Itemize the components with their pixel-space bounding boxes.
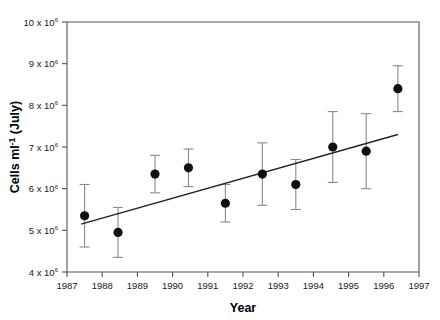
x-tick-label: 1991 [197, 280, 218, 291]
data-point [150, 169, 159, 178]
y-tick-label: 10 x 106 [23, 17, 58, 28]
trend-line [81, 135, 398, 225]
y-tick-label: 5 x 106 [29, 225, 59, 236]
x-axis-ticks: 1987198819891990199119921993199419951996… [56, 272, 429, 291]
x-tick-label: 1987 [56, 280, 77, 291]
y-axis-title: Cells ml-1 (July) [7, 101, 22, 193]
data-point [291, 180, 300, 189]
y-tick-label: 7 x 106 [29, 142, 59, 153]
scatter-plot: 4 x 1065 x 1066 x 1067 x 1068 x 1069 x 1… [0, 0, 440, 320]
x-tick-label: 1993 [268, 280, 289, 291]
y-tick-label: 8 x 106 [29, 100, 59, 111]
x-tick-label: 1988 [92, 280, 113, 291]
data-point [328, 142, 337, 151]
error-bars [80, 66, 403, 258]
x-tick-label: 1989 [127, 280, 148, 291]
data-point [362, 147, 371, 156]
data-point [258, 169, 267, 178]
data-point [113, 228, 122, 237]
x-axis-title: Year [230, 301, 257, 315]
y-tick-label: 4 x 106 [29, 267, 59, 278]
data-points [80, 84, 402, 237]
y-tick-label: 9 x 106 [29, 58, 59, 69]
x-tick-label: 1997 [408, 280, 429, 291]
regression-line [81, 135, 398, 225]
x-tick-label: 1994 [303, 280, 324, 291]
data-point [221, 199, 230, 208]
svg-text:Cells ml-1 (July): Cells ml-1 (July) [7, 101, 22, 193]
data-point [393, 84, 402, 93]
chart-figure: 4 x 1065 x 1066 x 1067 x 1068 x 1069 x 1… [0, 0, 440, 320]
data-point [184, 163, 193, 172]
x-tick-label: 1996 [373, 280, 394, 291]
y-axis-title-tail: (July) [8, 101, 22, 138]
data-point [80, 211, 89, 220]
y-tick-label: 6 x 106 [29, 183, 59, 194]
x-tick-label: 1995 [338, 280, 359, 291]
y-axis-ticks: 4 x 1065 x 1066 x 1067 x 1068 x 1069 x 1… [23, 17, 67, 278]
x-tick-label: 1992 [232, 280, 253, 291]
y-axis-title-main: Cells ml [8, 145, 22, 193]
x-tick-label: 1990 [162, 280, 183, 291]
